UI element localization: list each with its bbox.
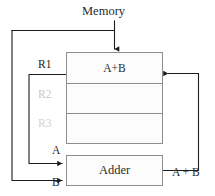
adder-label: Adder [67, 156, 162, 185]
memory-label: Memory [82, 5, 125, 18]
register-r3-label: R3 [38, 118, 51, 130]
register-row-r1: A+B [67, 53, 162, 84]
register-adder-datapath-diagram: A+B Adder Memory R1 R2 R3 A B A + B [0, 0, 215, 196]
register-r1-value: A+B [103, 62, 125, 74]
adder-input-b-label: B [52, 177, 60, 189]
adder-output-label: A + B [172, 167, 200, 179]
adder-input-a-label: A [52, 145, 60, 157]
register-row-r2 [67, 84, 162, 114]
register-file-box: A+B [66, 52, 163, 144]
adder-box: Adder [66, 155, 163, 186]
register-row-r3 [67, 114, 162, 143]
register-r1-label: R1 [38, 59, 51, 71]
wire-left-outer-rail-to-b-input [12, 31, 62, 181]
wire-adder-output-to-register-feedback [163, 74, 199, 171]
register-r2-label: R2 [38, 89, 51, 101]
